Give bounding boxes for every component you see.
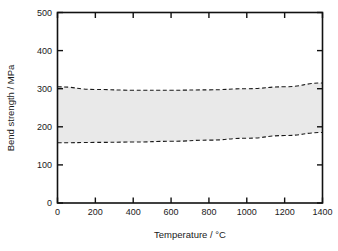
x-tick-label: 1400 <box>312 207 332 217</box>
y-tick-label: 0 <box>47 198 52 208</box>
y-tick-label: 300 <box>37 84 52 94</box>
x-tick-label: 400 <box>126 207 141 217</box>
x-axis-title: Temperature / °C <box>154 229 226 240</box>
y-tick-label: 200 <box>37 122 52 132</box>
scatter-band <box>58 83 323 143</box>
x-tick-label: 0 <box>55 207 60 217</box>
y-tick-label: 100 <box>37 160 52 170</box>
y-tick-label: 400 <box>37 46 52 56</box>
y-axis-title: Bend strength / MPa <box>5 64 16 151</box>
band-fill <box>58 83 323 143</box>
chart-figure: 0200400600800100012001400 01002003004005… <box>0 0 338 251</box>
x-tick-label: 600 <box>164 207 179 217</box>
bend-strength-vs-temperature-chart: 0200400600800100012001400 01002003004005… <box>0 0 338 251</box>
x-tick-label: 800 <box>201 207 216 217</box>
x-tick-label: 1200 <box>275 207 295 217</box>
x-tick-label: 1000 <box>237 207 257 217</box>
x-tick-label: 200 <box>88 207 103 217</box>
y-tick-label: 500 <box>37 8 52 18</box>
